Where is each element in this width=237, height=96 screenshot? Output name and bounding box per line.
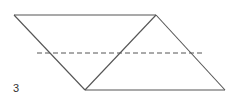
figure-number-label: 3 — [13, 83, 19, 94]
parallelogram-diagram — [0, 0, 237, 96]
